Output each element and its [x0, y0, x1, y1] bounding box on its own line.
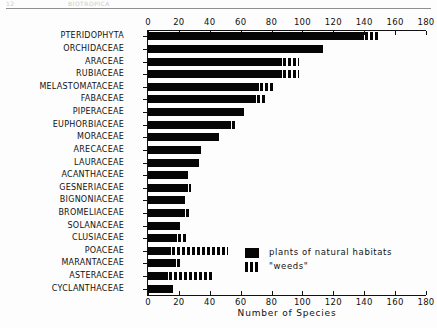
category-tick-1 [143, 49, 147, 50]
x-tick-label-bottom-80: 80 [257, 297, 287, 307]
category-tick-4 [143, 87, 147, 88]
legend-label-weeds: "weeds" [269, 261, 308, 271]
x-tick-label-top-180: 180 [411, 17, 437, 27]
chart-legend: plants of natural habitats "weeds" [245, 246, 435, 278]
category-label-clusiaceae: CLUSIACEAE [72, 233, 124, 242]
x-tick-label-bottom-100: 100 [287, 297, 317, 307]
bar-weeds-fabaceae [257, 95, 265, 103]
x-tick-bottom-80 [272, 291, 273, 295]
category-label-orchidaceae: ORCHIDACEAE [63, 44, 124, 53]
bottom-axis-line [148, 295, 426, 296]
x-tick-label-bottom-160: 160 [380, 297, 410, 307]
bar-chart: Number of Species 0020204040606080801001… [0, 0, 437, 328]
x-tick-bottom-160 [395, 291, 396, 295]
category-label-euphorbiaceae: EUPHORBIACEAE [53, 120, 124, 129]
bar-natural-melastomataceae [148, 83, 259, 91]
bar-natural-pteridophyta [148, 32, 364, 40]
x-tick-label-top-160: 160 [380, 17, 410, 27]
category-label-lauraceae: LAURACEAE [74, 158, 124, 167]
category-tick-18 [143, 263, 147, 264]
x-tick-label-top-100: 100 [287, 17, 317, 27]
x-tick-label-top-80: 80 [257, 17, 287, 27]
legend-swatch-solid-icon [245, 248, 259, 258]
category-tick-5 [143, 99, 147, 100]
category-tick-16 [143, 238, 147, 239]
bar-weeds-melastomataceae [260, 83, 272, 91]
category-label-pteridophyta: PTERIDOPHYTA [60, 31, 124, 40]
category-tick-15 [143, 226, 147, 227]
top-axis-line [148, 30, 426, 31]
bar-natural-asteraceae [148, 272, 168, 280]
x-tick-label-top-60: 60 [226, 17, 256, 27]
x-tick-top-160 [395, 31, 396, 35]
category-tick-13 [143, 200, 147, 201]
bar-natural-lauraceae [148, 159, 199, 167]
category-label-rubiaceae: RUBIACEAE [76, 69, 124, 78]
category-tick-11 [143, 175, 147, 176]
x-tick-bottom-20 [179, 291, 180, 295]
bar-weeds-marantaceae [177, 259, 180, 267]
category-label-gesneriaceae: GESNERIACEAE [59, 183, 124, 192]
bar-natural-piperaceae [148, 108, 244, 116]
bar-natural-clusiaceae [148, 234, 177, 242]
x-tick-bottom-120 [333, 291, 334, 295]
bar-weeds-rubiaceae [283, 70, 298, 78]
category-tick-3 [143, 74, 147, 75]
x-tick-label-top-20: 20 [164, 17, 194, 27]
bar-natural-marantaceae [148, 259, 176, 267]
legend-label-natural: plants of natural habitats [269, 247, 392, 257]
bar-weeds-pteridophyta [365, 32, 377, 40]
bar-natural-bignoniaceae [148, 196, 185, 204]
category-label-arecaceae: ARECACEAE [74, 145, 124, 154]
category-label-acanthaceae: ACANTHACEAE [61, 170, 124, 179]
category-tick-12 [143, 188, 147, 189]
category-tick-10 [143, 163, 147, 164]
category-label-fabaceae: FABACEAE [81, 94, 124, 103]
category-tick-2 [143, 62, 147, 63]
x-tick-top-180 [426, 31, 427, 35]
x-tick-label-bottom-180: 180 [411, 297, 437, 307]
bar-natural-bromeliaceae [148, 209, 185, 217]
x-axis-title: Number of Species [148, 308, 426, 318]
bar-weeds-gesneriaceae [189, 184, 191, 192]
bar-natural-rubiaceae [148, 70, 282, 78]
category-tick-6 [143, 112, 147, 113]
category-label-araceae: ARACEAE [85, 57, 124, 66]
bar-weeds-euphorbiaceae [232, 121, 237, 129]
category-tick-17 [143, 251, 147, 252]
bar-natural-solanaceae [148, 222, 180, 230]
category-label-marantaceae: MARANTACEAE [61, 258, 124, 267]
x-tick-bottom-140 [364, 291, 365, 295]
bar-natural-euphorbiaceae [148, 121, 231, 129]
category-label-moraceae: MORACEAE [77, 132, 124, 141]
category-tick-8 [143, 137, 147, 138]
category-label-piperaceae: PIPERACEAE [73, 107, 124, 116]
bar-weeds-poaceae [172, 247, 228, 255]
category-tick-9 [143, 150, 147, 151]
bar-natural-fabaceae [148, 95, 256, 103]
category-tick-14 [143, 213, 147, 214]
bar-natural-araceae [148, 58, 282, 66]
category-label-poaceae: POACEAE [85, 246, 124, 255]
category-label-melastomataceae: MELASTOMATACEAE [39, 82, 124, 91]
x-tick-label-bottom-60: 60 [226, 297, 256, 307]
category-label-cyclanthaceae: CYCLANTHACEAE [52, 284, 124, 293]
x-tick-bottom-100 [302, 291, 303, 295]
x-tick-label-bottom-120: 120 [318, 297, 348, 307]
bar-natural-arecaceae [148, 146, 201, 154]
x-tick-bottom-60 [241, 291, 242, 295]
x-tick-label-top-0: 0 [133, 17, 163, 27]
legend-swatch-hatched-icon [245, 262, 259, 272]
bar-weeds-araceae [283, 58, 298, 66]
bar-natural-moraceae [148, 133, 219, 141]
bar-natural-cyclanthaceae [148, 285, 173, 293]
x-tick-label-top-40: 40 [195, 17, 225, 27]
x-tick-bottom-180 [426, 291, 427, 295]
x-tick-label-top-140: 140 [349, 17, 379, 27]
bar-natural-gesneriaceae [148, 184, 188, 192]
x-tick-label-bottom-140: 140 [349, 297, 379, 307]
scanned-page: 12 BIOTROPICA Number of Species 00202040… [0, 0, 437, 328]
category-tick-19 [143, 276, 147, 277]
bar-weeds-bromeliaceae [186, 209, 189, 217]
category-label-asteraceae: ASTERACEAE [69, 271, 124, 280]
